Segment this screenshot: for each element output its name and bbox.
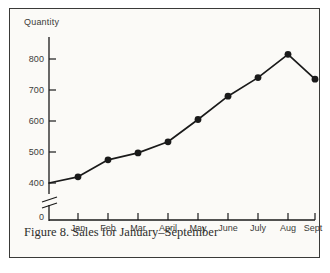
data-point-april — [165, 138, 172, 145]
figure-caption: Figure 8. Sales for January–September — [24, 225, 304, 240]
data-point-feb — [105, 156, 112, 163]
data-point-sept — [312, 76, 319, 83]
data-series-markers — [75, 51, 319, 180]
data-point-mar — [135, 150, 142, 157]
data-series-line — [49, 54, 315, 183]
x-axis-ticks — [78, 213, 315, 220]
plot-area: Quantity 800 700 600 500 400 0 — [10, 9, 321, 224]
data-point-aug — [285, 51, 292, 58]
data-point-july — [255, 74, 262, 81]
y-axis-ticks — [49, 59, 56, 183]
data-point-jan — [75, 173, 82, 180]
data-point-june — [225, 93, 232, 100]
line-chart-canvas — [10, 9, 321, 224]
x-tick-label-sept: Sept — [304, 223, 323, 233]
data-point-may — [195, 116, 202, 123]
figure-frame: Quantity 800 700 600 500 400 0 — [9, 8, 320, 258]
